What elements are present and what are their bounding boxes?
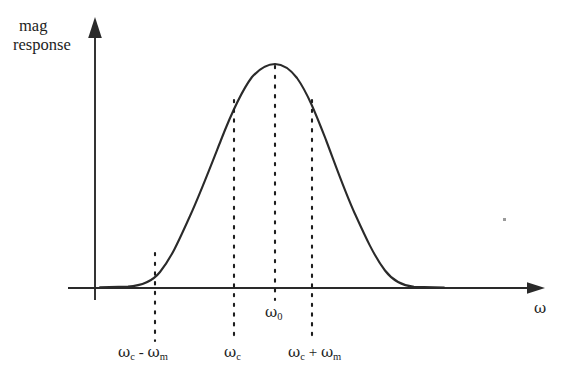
y-axis-arrowhead (88, 17, 102, 38)
figure-canvas: mag response ωc - ωm ωc ωc + ωm ω0 ω (0, 0, 563, 388)
scan-artifact-speck (503, 218, 506, 221)
omega-glyph: ω (288, 343, 300, 361)
y-axis-label-line2: response (13, 35, 71, 54)
x-axis-label: ω (534, 300, 546, 318)
tick-label-wc-plus-wm: ωc + ωm (288, 344, 341, 362)
omega-glyph: ω (265, 303, 277, 321)
y-axis-label: mag response (13, 16, 71, 55)
omega-subscript-m: m (333, 351, 341, 362)
omega-glyph: ω (224, 343, 236, 361)
tick-label-w0: ω0 (265, 304, 282, 322)
omega-glyph: ω (118, 343, 130, 361)
x-axis-arrowhead (527, 282, 545, 294)
tick-label-wc: ωc (224, 344, 241, 362)
omega-subscript-c: c (130, 351, 135, 362)
magnitude-response-curve (100, 64, 444, 288)
minus-operator: - (135, 344, 148, 360)
plot-svg (0, 0, 563, 388)
omega-subscript-m: m (160, 351, 168, 362)
omega-subscript-c: c (300, 351, 305, 362)
omega-glyph: ω (321, 343, 333, 361)
plus-operator: + (305, 344, 321, 360)
omega-subscript-c: c (236, 351, 241, 362)
omega-glyph: ω (147, 343, 159, 361)
y-axis-label-line1: mag (19, 16, 71, 35)
omega-subscript-0: 0 (277, 311, 282, 322)
tick-label-wc-minus-wm: ωc - ωm (118, 344, 168, 362)
